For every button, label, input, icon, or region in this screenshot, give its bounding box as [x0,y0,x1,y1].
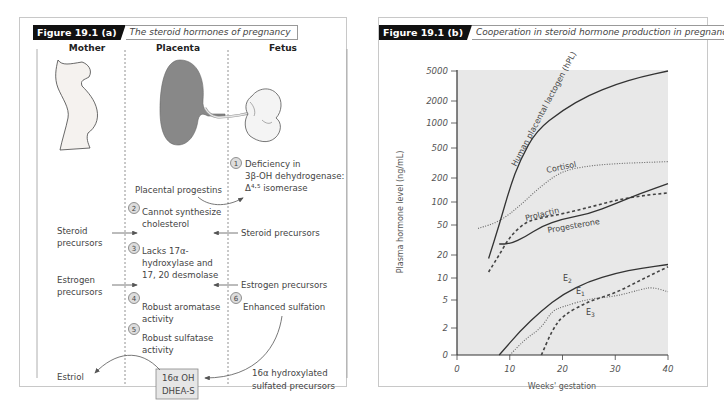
y-tick-label: 0 [443,350,449,360]
y-tick-label: 50 [437,220,448,230]
x-tick-label: 0 [454,364,460,374]
plot-area [457,70,668,355]
y-tick-label: 2000 [426,96,448,106]
y-axis-label: Plasma hormone level (ng/mL) [396,151,405,274]
y-tick-label: 500 [432,143,449,153]
hormone-level-chart: 025102050100200500100020005000 010203040… [0,0,724,415]
x-ticks: 010203040 [454,355,674,374]
x-tick-label: 20 [557,364,568,374]
y-tick-label: 10 [437,273,448,283]
y-tick-label: 1000 [426,118,448,128]
x-tick-label: 30 [610,364,621,374]
y-ticks: 025102050100200500100020005000 [426,66,457,360]
x-tick-label: 10 [504,364,515,374]
x-axis-label: Weeks' gestation [528,382,596,391]
y-tick-label: 5000 [426,66,448,76]
x-tick-label: 40 [663,364,674,374]
y-tick-label: 200 [432,173,449,183]
y-tick-label: 20 [437,250,448,260]
y-tick-label: 5 [443,295,448,305]
y-tick-label: 100 [432,197,449,207]
y-tick-label: 2 [443,323,448,333]
